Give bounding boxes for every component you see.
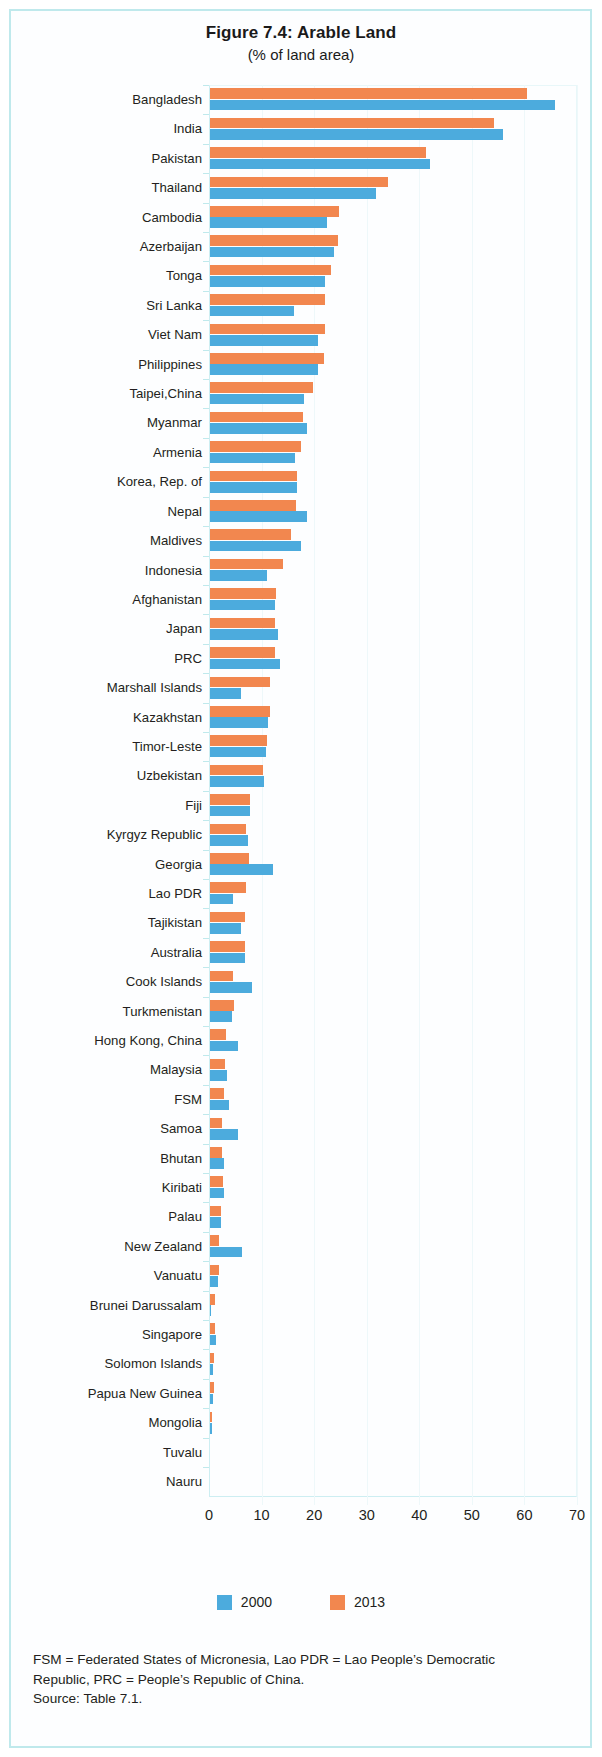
bar-group <box>210 1202 578 1231</box>
bar-2000 <box>210 1188 224 1199</box>
chart-category-row: Pakistan <box>0 144 602 173</box>
bar-2013 <box>210 1206 221 1217</box>
axis-tick <box>203 320 209 321</box>
legend-item: 2013 <box>330 1594 385 1610</box>
chart-category-row: Turkmenistan <box>0 997 602 1026</box>
axis-tick <box>203 673 209 674</box>
chart-category-row: Malaysia <box>0 1055 602 1084</box>
bar-2013 <box>210 1412 212 1423</box>
bar-group <box>210 497 578 526</box>
category-label: Afghanistan <box>2 585 202 614</box>
chart-category-row: Mongolia <box>0 1408 602 1437</box>
chart-category-row: Taipei,China <box>0 379 602 408</box>
bar-2000 <box>210 864 273 875</box>
chart-category-row: Nepal <box>0 497 602 526</box>
axis-tick <box>203 497 209 498</box>
bar-group <box>210 1085 578 1114</box>
bar-2000 <box>210 776 264 787</box>
bar-group <box>210 144 578 173</box>
chart-category-row: Vanuatu <box>0 1261 602 1290</box>
bar-group <box>210 1379 578 1408</box>
chart-category-row: Kazakhstan <box>0 703 602 732</box>
bar-2013 <box>210 324 325 335</box>
axis-tick <box>203 614 209 615</box>
axis-tick <box>203 173 209 174</box>
x-tick-label: 10 <box>242 1507 282 1523</box>
axis-tick <box>203 1438 209 1439</box>
bar-2013 <box>210 177 388 188</box>
bar-2013 <box>210 235 338 246</box>
axis-tick <box>203 1349 209 1350</box>
chart-category-row: Japan <box>0 614 602 643</box>
axis-tick <box>203 232 209 233</box>
bar-2013 <box>210 294 325 305</box>
category-label: Cambodia <box>2 203 202 232</box>
axis-tick <box>203 850 209 851</box>
chart-category-row: Thailand <box>0 173 602 202</box>
chart-category-row: Armenia <box>0 438 602 467</box>
chart-category-row: Afghanistan <box>0 585 602 614</box>
bar-2000 <box>210 982 252 993</box>
bar-2013 <box>210 441 301 452</box>
category-label: Nepal <box>2 497 202 526</box>
category-label: Bangladesh <box>2 85 202 114</box>
figure-page: Figure 7.4: Arable Land (% of land area)… <box>0 0 602 1757</box>
axis-tick <box>203 1173 209 1174</box>
bar-2000 <box>210 1423 212 1434</box>
bar-group <box>210 556 578 585</box>
bar-group <box>210 379 578 408</box>
category-label: Myanmar <box>2 408 202 437</box>
category-label: Uzbekistan <box>2 761 202 790</box>
bar-2013 <box>210 882 246 893</box>
axis-tick <box>203 761 209 762</box>
bar-2000 <box>210 1276 218 1287</box>
bar-2000 <box>210 423 307 434</box>
axis-tick <box>203 114 209 115</box>
chart-category-row: Georgia <box>0 850 602 879</box>
bar-2013 <box>210 1235 219 1246</box>
footnote-line-2: Republic, PRC = People’s Republic of Chi… <box>33 1670 573 1690</box>
bar-group <box>210 320 578 349</box>
x-tick-label: 40 <box>399 1507 439 1523</box>
bar-group <box>210 703 578 732</box>
bar-2000 <box>210 1217 221 1228</box>
category-label: Marshall Islands <box>2 673 202 702</box>
bar-2013 <box>210 824 246 835</box>
chart-category-row: Kiribati <box>0 1173 602 1202</box>
bar-2000 <box>210 717 268 728</box>
axis-tick <box>203 350 209 351</box>
x-tick-label: 70 <box>557 1507 597 1523</box>
bar-group <box>210 1320 578 1349</box>
bar-group <box>210 1055 578 1084</box>
title-block: Figure 7.4: Arable Land (% of land area) <box>0 22 602 66</box>
bar-2000 <box>210 659 280 670</box>
axis-tick <box>203 291 209 292</box>
chart-category-row: Nauru <box>0 1467 602 1496</box>
category-label: Sri Lanka <box>2 291 202 320</box>
bar-2000 <box>210 1100 229 1111</box>
bar-2000 <box>210 159 430 170</box>
bar-group <box>210 997 578 1026</box>
category-label: Nauru <box>2 1467 202 1496</box>
axis-tick <box>203 997 209 998</box>
chart-plot-wrapper: BangladeshIndiaPakistanThailandCambodiaA… <box>0 85 602 1505</box>
axis-tick <box>203 938 209 939</box>
chart-category-row: Philippines <box>0 350 602 379</box>
category-label: Hong Kong, China <box>2 1026 202 1055</box>
axis-tick <box>203 1320 209 1321</box>
category-label: Thailand <box>2 173 202 202</box>
chart-category-row: FSM <box>0 1085 602 1114</box>
axis-tick <box>203 820 209 821</box>
chart-category-row: Hong Kong, China <box>0 1026 602 1055</box>
category-label: Singapore <box>2 1320 202 1349</box>
legend-swatch-icon <box>217 1595 232 1610</box>
category-label: Azerbaijan <box>2 232 202 261</box>
category-label: Indonesia <box>2 556 202 585</box>
chart-category-row: Tonga <box>0 261 602 290</box>
category-label: Maldives <box>2 526 202 555</box>
bar-2013 <box>210 1029 226 1040</box>
bar-group <box>210 232 578 261</box>
category-label: Georgia <box>2 850 202 879</box>
bar-group <box>210 614 578 643</box>
bar-group <box>210 850 578 879</box>
